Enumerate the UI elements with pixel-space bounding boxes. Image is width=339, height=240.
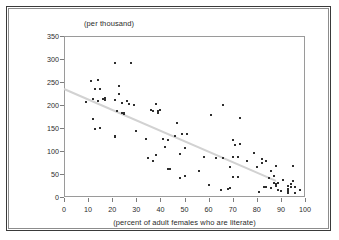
data-point: [290, 186, 292, 188]
data-point: [181, 133, 183, 135]
data-point: [277, 182, 279, 184]
data-point: [222, 157, 224, 159]
scatter-chart: (per thousand) 0501001502002503003500102…: [0, 0, 339, 240]
data-point: [157, 112, 159, 114]
data-point: [294, 192, 296, 194]
data-point: [184, 175, 186, 177]
data-point: [261, 158, 263, 160]
data-point: [222, 104, 224, 106]
data-point: [159, 109, 161, 111]
data-point: [237, 156, 239, 158]
data-point: [92, 98, 94, 100]
data-point: [261, 162, 263, 164]
data-point: [232, 139, 234, 141]
data-point: [232, 176, 234, 178]
data-point: [246, 160, 248, 162]
data-point: [135, 130, 137, 132]
data-point: [176, 122, 178, 124]
data-point: [234, 144, 236, 146]
data-point: [99, 127, 101, 129]
data-point: [290, 183, 292, 185]
data-point: [116, 110, 118, 112]
data-point: [164, 146, 166, 148]
data-point: [99, 88, 101, 90]
data-point: [104, 99, 106, 101]
data-point: [210, 114, 212, 116]
data-point: [270, 187, 272, 189]
data-point: [179, 153, 181, 155]
data-point: [198, 170, 200, 172]
data-point: [184, 147, 186, 149]
data-point: [92, 118, 94, 120]
data-point: [186, 133, 188, 135]
data-point: [94, 128, 96, 130]
data-point: [239, 143, 241, 145]
data-point: [203, 156, 205, 158]
data-point: [273, 175, 275, 177]
data-point: [152, 160, 154, 162]
x-axis-label: (percent of adult females who are litera…: [64, 218, 305, 227]
data-point: [147, 157, 149, 159]
data-point: [292, 165, 294, 167]
data-point: [85, 101, 87, 103]
data-point: [215, 157, 217, 159]
data-point: [179, 177, 181, 179]
data-point: [145, 138, 147, 140]
data-point: [282, 179, 284, 181]
data-point: [126, 100, 128, 102]
data-point: [239, 117, 241, 119]
data-point: [237, 176, 239, 178]
data-point: [270, 170, 272, 172]
data-point: [114, 62, 116, 64]
data-point: [155, 154, 157, 156]
data-point: [152, 110, 154, 112]
data-point: [123, 112, 125, 114]
data-point: [229, 187, 231, 189]
data-point: [97, 79, 99, 81]
data-point: [256, 166, 258, 168]
data-point: [275, 165, 277, 167]
data-point: [287, 192, 289, 194]
data-point: [169, 168, 171, 170]
data-point: [174, 135, 176, 137]
data-point: [114, 99, 116, 101]
data-point: [280, 190, 282, 192]
data-point: [155, 103, 157, 105]
data-point: [133, 104, 135, 106]
data-point: [118, 93, 120, 95]
data-point: [167, 139, 169, 141]
data-point: [287, 188, 289, 190]
data-point: [275, 185, 277, 187]
data-point: [130, 62, 132, 64]
data-point: [258, 191, 260, 193]
data-point: [253, 152, 255, 154]
data-point: [229, 166, 231, 168]
data-point: [265, 160, 267, 162]
data-point: [104, 97, 106, 99]
data-points-layer: [0, 0, 339, 240]
data-point: [128, 103, 130, 105]
data-point: [121, 102, 123, 104]
data-point: [94, 88, 96, 90]
data-point: [268, 177, 270, 179]
data-point: [162, 138, 164, 140]
data-point: [294, 186, 296, 188]
data-point: [265, 186, 267, 188]
data-point: [90, 80, 92, 82]
data-point: [299, 189, 301, 191]
data-point: [220, 189, 222, 191]
data-point: [97, 100, 99, 102]
data-point: [118, 85, 120, 87]
data-point: [114, 136, 116, 138]
data-point: [208, 184, 210, 186]
data-point: [292, 180, 294, 182]
data-point: [232, 156, 234, 158]
